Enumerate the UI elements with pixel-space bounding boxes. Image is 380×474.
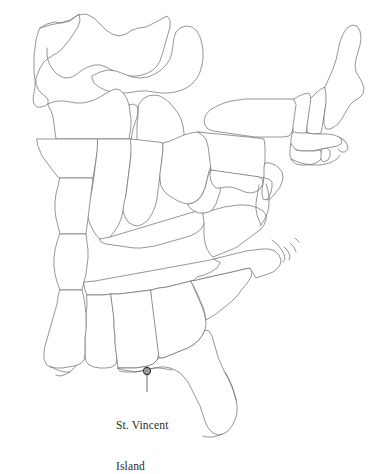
st-vincent-island-label: St. Vincent Island bbox=[116, 392, 169, 474]
state-wisconsin bbox=[48, 89, 131, 139]
state-maine bbox=[324, 25, 364, 129]
state-new-hampshire bbox=[307, 87, 327, 134]
state-iowa bbox=[37, 139, 98, 178]
label-line-2: Island bbox=[116, 460, 169, 474]
barrier-island-nc-2 bbox=[295, 238, 299, 242]
state-louisiana bbox=[44, 290, 86, 368]
state-outlines bbox=[33, 14, 364, 435]
state-massachusetts bbox=[291, 132, 342, 151]
state-new-york bbox=[204, 99, 297, 137]
state-missouri bbox=[55, 178, 93, 234]
state-rhode-island bbox=[321, 148, 330, 162]
state-arkansas bbox=[54, 234, 88, 290]
state-michigan-upper-peninsula bbox=[92, 26, 203, 93]
st-vincent-island-marker[interactable] bbox=[143, 367, 150, 374]
barrier-island-nc-1 bbox=[290, 243, 296, 252]
label-line-1: St. Vincent bbox=[116, 419, 169, 433]
